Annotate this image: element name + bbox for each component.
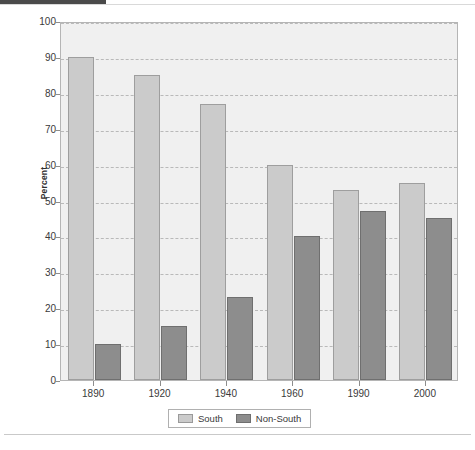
x-tick-label: 1960 <box>262 388 322 399</box>
y-tick-label: 0 <box>22 376 56 386</box>
bar-south-2000 <box>399 183 425 380</box>
gridline <box>61 95 457 96</box>
x-tick-label: 2000 <box>395 388 455 399</box>
bar-non-south-1920 <box>161 326 187 380</box>
x-tick-mark <box>226 381 227 386</box>
x-tick-mark <box>93 381 94 386</box>
x-tick-label: 1990 <box>329 388 389 399</box>
gridline <box>61 167 457 168</box>
legend-label: Non-South <box>256 413 301 424</box>
bar-south-1940 <box>200 104 226 380</box>
y-tick-mark <box>55 381 60 382</box>
chart-legend[interactable]: SouthNon-South <box>168 409 311 428</box>
x-tick-mark <box>425 381 426 386</box>
y-tick-label: 100 <box>22 17 56 27</box>
header-divider <box>0 4 475 5</box>
gridline <box>61 203 457 204</box>
legend-label: South <box>198 413 223 424</box>
y-tick-label: 90 <box>22 53 56 63</box>
y-tick-label: 40 <box>22 232 56 242</box>
x-tick-mark <box>160 381 161 386</box>
y-tick-label: 20 <box>22 304 56 314</box>
x-tick-mark <box>292 381 293 386</box>
x-tick-mark <box>359 381 360 386</box>
y-tick-label: 10 <box>22 340 56 350</box>
bar-south-1990 <box>333 190 359 380</box>
x-tick-label: 1940 <box>196 388 256 399</box>
x-tick-label: 1920 <box>130 388 190 399</box>
bar-non-south-1960 <box>294 236 320 380</box>
bar-south-1920 <box>134 75 160 380</box>
bar-non-south-2000 <box>426 218 452 380</box>
legend-item-non-south[interactable]: Non-South <box>236 413 301 424</box>
y-tick-label: 50 <box>22 197 56 207</box>
gridline <box>61 238 457 239</box>
legend-item-south[interactable]: South <box>178 413 223 424</box>
bar-south-1960 <box>267 165 293 380</box>
y-tick-label: 30 <box>22 268 56 278</box>
y-tick-label: 70 <box>22 125 56 135</box>
plot-area <box>60 22 458 381</box>
legend-swatch-icon <box>178 414 193 423</box>
y-tick-label: 80 <box>22 89 56 99</box>
bar-non-south-1940 <box>227 297 253 380</box>
gridline <box>61 274 457 275</box>
gridline <box>61 23 457 24</box>
y-axis-tick-labels: 0102030405060708090100 <box>16 22 56 381</box>
x-tick-label: 1890 <box>63 388 123 399</box>
bar-chart-figure: Percent 0102030405060708090100 189019201… <box>0 8 475 423</box>
bar-non-south-1990 <box>360 211 386 380</box>
bar-non-south-1890 <box>95 344 121 380</box>
gridline <box>61 310 457 311</box>
gridline <box>61 59 457 60</box>
legend-swatch-icon <box>236 414 251 423</box>
footer-divider <box>4 434 471 435</box>
y-tick-label: 60 <box>22 161 56 171</box>
gridline <box>61 131 457 132</box>
bar-south-1890 <box>68 57 94 380</box>
